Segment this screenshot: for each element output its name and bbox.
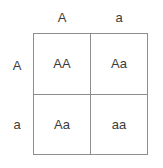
genotype-grid: AA Aa Aa aa <box>33 33 148 155</box>
genotype-cell: Aa <box>91 34 148 95</box>
genotype-cell: AA <box>34 34 91 95</box>
punnett-square: A a A a AA Aa Aa aa <box>0 0 163 168</box>
column-header-allele-2: a <box>90 8 148 28</box>
column-header-allele-1: A <box>33 8 91 28</box>
genotype-cell: Aa <box>34 95 91 156</box>
row-header-allele-2: a <box>4 115 30 135</box>
row-header-allele-1: A <box>4 56 30 76</box>
genotype-cell: aa <box>91 95 148 156</box>
